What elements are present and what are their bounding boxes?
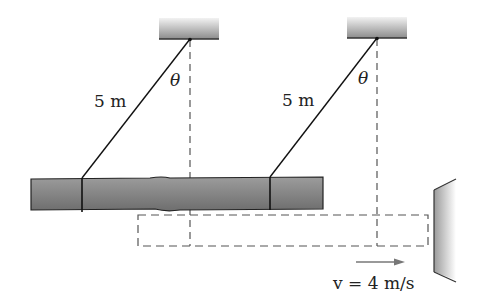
wall xyxy=(434,179,456,282)
log-lowest-position-outline xyxy=(138,215,428,246)
ceiling-support-left xyxy=(159,18,219,39)
angle-right-label: θ xyxy=(358,68,368,88)
ceiling-support-right xyxy=(347,17,407,38)
rope-right-length-label: 5 m xyxy=(282,90,314,110)
angle-left-label: θ xyxy=(170,70,180,90)
log xyxy=(31,177,323,211)
pendulum-log-diagram: 5 m θ 5 m θ v = 4 m/s xyxy=(0,0,479,308)
velocity-arrow-icon xyxy=(356,259,405,266)
velocity-label: v = 4 m/s xyxy=(332,273,414,293)
rope-left-length-label: 5 m xyxy=(94,91,126,111)
